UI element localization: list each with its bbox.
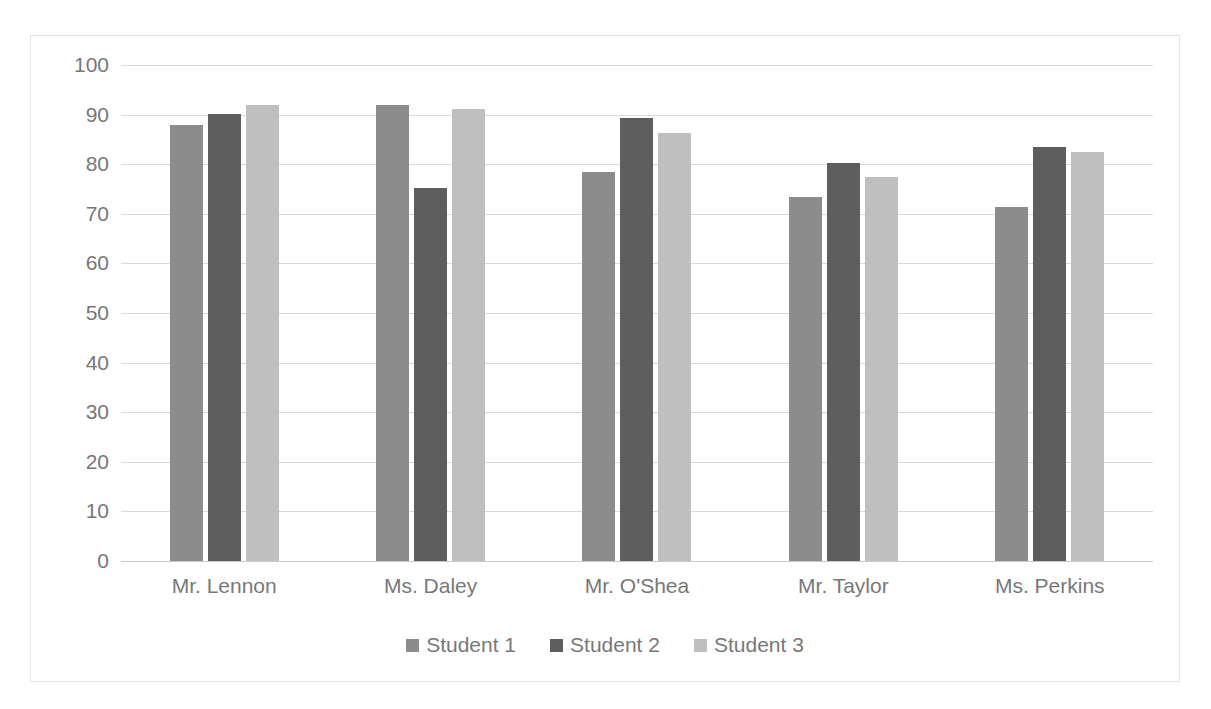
bar-group: Ms. Perkins — [947, 65, 1153, 561]
legend-swatch-icon — [550, 639, 563, 652]
bar[interactable] — [246, 105, 279, 561]
bar[interactable] — [865, 177, 898, 561]
bar[interactable] — [658, 133, 691, 561]
bar[interactable] — [827, 163, 860, 561]
bar[interactable] — [452, 109, 485, 561]
bar[interactable] — [1071, 152, 1104, 561]
legend-label: Student 3 — [714, 633, 804, 657]
y-axis-tick-label: 100 — [49, 53, 109, 77]
legend-label: Student 2 — [570, 633, 660, 657]
bar-group: Mr. Taylor — [740, 65, 946, 561]
bar-group-bars — [534, 65, 740, 561]
legend: Student 1Student 2Student 3 — [31, 633, 1179, 657]
bar[interactable] — [376, 105, 409, 561]
bar[interactable] — [789, 197, 822, 561]
x-axis-category-label: Ms. Daley — [327, 574, 533, 598]
y-axis-tick-label: 10 — [49, 499, 109, 523]
bar[interactable] — [414, 188, 447, 561]
x-axis-category-label: Mr. Taylor — [740, 574, 946, 598]
y-axis-tick-label: 80 — [49, 152, 109, 176]
bar-group-bars — [121, 65, 327, 561]
plot-area: 1009080706050403020100 Mr. LennonMs. Dal… — [121, 65, 1153, 561]
y-axis-tick-label: 30 — [49, 400, 109, 424]
bar[interactable] — [208, 114, 241, 561]
y-axis-tick-label: 20 — [49, 450, 109, 474]
chart-container: 1009080706050403020100 Mr. LennonMs. Dal… — [30, 35, 1180, 682]
bar[interactable] — [582, 172, 615, 561]
bar[interactable] — [620, 118, 653, 561]
bar-group: Mr. O'Shea — [534, 65, 740, 561]
bar[interactable] — [995, 207, 1028, 561]
bar-group-bars — [327, 65, 533, 561]
x-axis-category-label: Mr. Lennon — [121, 574, 327, 598]
legend-item[interactable]: Student 3 — [694, 633, 804, 657]
y-axis-tick-label: 0 — [49, 549, 109, 573]
legend-item[interactable]: Student 1 — [406, 633, 516, 657]
bar-group-bars — [740, 65, 946, 561]
gridline — [121, 561, 1153, 562]
x-axis-category-label: Mr. O'Shea — [534, 574, 740, 598]
bar[interactable] — [1033, 147, 1066, 561]
y-axis-tick-label: 40 — [49, 351, 109, 375]
y-axis-tick-label: 60 — [49, 251, 109, 275]
x-axis-category-label: Ms. Perkins — [947, 574, 1153, 598]
y-axis-tick-label: 90 — [49, 103, 109, 127]
y-axis-tick-label: 50 — [49, 301, 109, 325]
bar-group: Ms. Daley — [327, 65, 533, 561]
legend-item[interactable]: Student 2 — [550, 633, 660, 657]
legend-label: Student 1 — [426, 633, 516, 657]
bar-group-bars — [947, 65, 1153, 561]
bar[interactable] — [170, 125, 203, 561]
y-axis-tick-label: 70 — [49, 202, 109, 226]
legend-swatch-icon — [406, 639, 419, 652]
legend-swatch-icon — [694, 639, 707, 652]
bar-group: Mr. Lennon — [121, 65, 327, 561]
